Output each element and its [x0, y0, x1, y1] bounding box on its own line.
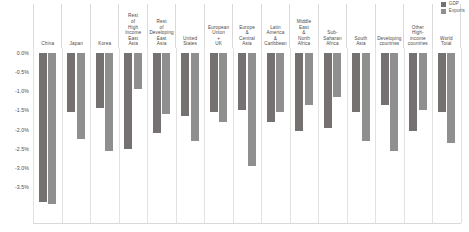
- bar-group: [347, 48, 376, 223]
- bar-gdp[interactable]: [324, 53, 332, 128]
- chart-container: GDPExports ChinaJapanKoreaRest of High I…: [0, 0, 469, 232]
- y-axis-tick-label: -2.5%: [15, 146, 29, 152]
- category-label-cell: Other High-income countries: [403, 4, 431, 48]
- bar-exports[interactable]: [162, 53, 170, 114]
- category-label-cell: Developing countries: [375, 4, 403, 48]
- bar-exports[interactable]: [248, 53, 256, 166]
- bar-group: [404, 48, 433, 223]
- y-axis-tick-label: -3.5%: [15, 184, 29, 190]
- bar-group: [147, 48, 176, 223]
- bar-gdp[interactable]: [295, 53, 303, 131]
- bar-group: [204, 48, 233, 223]
- y-axis-tick-label: -3.0%: [15, 165, 29, 171]
- legend-item[interactable]: Exports: [441, 9, 465, 14]
- y-axis-labels: 0.0%-0.5%-1.0%-1.5%-2.0%-2.5%-3.0%-3.5%: [0, 48, 31, 224]
- bar-exports[interactable]: [419, 53, 427, 110]
- bar-group: [33, 48, 62, 223]
- y-axis-tick-label: -1.0%: [15, 88, 29, 94]
- bar-gdp[interactable]: [352, 53, 360, 112]
- legend-label: GDP: [449, 2, 459, 7]
- bar-exports[interactable]: [77, 53, 85, 139]
- bar-group: [119, 48, 148, 223]
- bar-gdp[interactable]: [267, 53, 275, 122]
- category-label-band: ChinaJapanKoreaRest of High Income East …: [33, 4, 461, 48]
- bar-group: [290, 48, 319, 223]
- category-label: Middle East & North Africa: [291, 19, 316, 47]
- bar-group: [233, 48, 262, 223]
- bar-gdp[interactable]: [210, 53, 218, 112]
- bar-gdp[interactable]: [153, 53, 161, 133]
- legend-swatch-icon: [441, 2, 446, 7]
- y-axis-tick-label: 0.0%: [17, 50, 29, 56]
- bar-group: [176, 48, 205, 223]
- y-axis-tick-label: -1.5%: [15, 107, 29, 113]
- category-label: European Union + UK: [206, 25, 231, 47]
- bar-exports[interactable]: [105, 53, 113, 151]
- category-label-cell: European Union + UK: [204, 4, 232, 48]
- category-label: World Total: [434, 36, 459, 47]
- category-label: Korea: [98, 41, 111, 47]
- bar-exports[interactable]: [134, 53, 142, 89]
- category-label: Rest of High Income East Asia: [120, 13, 145, 47]
- bar-exports[interactable]: [333, 53, 341, 97]
- bar-gdp[interactable]: [381, 53, 389, 105]
- category-label: United States: [177, 36, 202, 47]
- chart-legend: GDPExports: [441, 2, 465, 14]
- plot-area: [33, 48, 461, 224]
- bar-group: [62, 48, 91, 223]
- bar-exports[interactable]: [362, 53, 370, 141]
- bar-gdp[interactable]: [39, 53, 47, 202]
- legend-swatch-icon: [441, 9, 446, 14]
- bar-group: [432, 48, 461, 223]
- category-label-cell: Latin America & Caribbean: [261, 4, 289, 48]
- category-label-cell: Middle East & North Africa: [289, 4, 317, 48]
- bar-group: [318, 48, 347, 223]
- category-label-cell: Rest of High Income East Asia: [118, 4, 146, 48]
- category-label-cell: United States: [175, 4, 203, 48]
- y-axis-tick-label: -2.0%: [15, 127, 29, 133]
- category-label-cell: South Asia: [346, 4, 374, 48]
- bar-exports[interactable]: [447, 53, 455, 143]
- category-label: Japan: [70, 41, 83, 47]
- bar-gdp[interactable]: [181, 53, 189, 116]
- category-label: Rest of Developing East Asia: [149, 19, 174, 47]
- legend-label: Exports: [449, 9, 465, 14]
- bar-gdp[interactable]: [124, 53, 132, 149]
- bar-exports[interactable]: [219, 53, 227, 122]
- bar-exports[interactable]: [48, 53, 56, 204]
- category-label: Developing countries: [377, 36, 402, 47]
- bar-gdp[interactable]: [409, 53, 417, 131]
- category-label: Sub-Saharan Africa: [320, 30, 345, 47]
- bar-exports[interactable]: [276, 53, 284, 112]
- category-label: South Asia: [348, 36, 373, 47]
- bar-exports[interactable]: [191, 53, 199, 141]
- category-label: China: [41, 41, 54, 47]
- category-label: Other High-income countries: [405, 25, 430, 47]
- category-label: Latin America & Caribbean: [263, 25, 288, 47]
- plot-area-wrapper: 0.0%-0.5%-1.0%-1.5%-2.0%-2.5%-3.0%-3.5%: [0, 48, 469, 224]
- bar-gdp[interactable]: [238, 53, 246, 110]
- category-label: Europe & Central Asia: [234, 25, 259, 47]
- category-label-cell: Rest of Developing East Asia: [147, 4, 175, 48]
- category-label-cell: Japan: [61, 4, 89, 48]
- category-divider: [461, 48, 462, 223]
- category-label-cell: Sub-Saharan Africa: [318, 4, 346, 48]
- bar-gdp[interactable]: [67, 53, 75, 112]
- bar-group: [375, 48, 404, 223]
- y-axis-tick-label: -0.5%: [15, 69, 29, 75]
- bar-gdp[interactable]: [438, 53, 446, 112]
- bar-group: [90, 48, 119, 223]
- category-label-cell: Korea: [90, 4, 118, 48]
- category-label-cell: China: [33, 4, 61, 48]
- category-label-cell: Europe & Central Asia: [232, 4, 260, 48]
- bar-exports[interactable]: [305, 53, 313, 105]
- bar-group: [261, 48, 290, 223]
- legend-item[interactable]: GDP: [441, 2, 465, 7]
- bar-gdp[interactable]: [96, 53, 104, 108]
- bar-exports[interactable]: [390, 53, 398, 151]
